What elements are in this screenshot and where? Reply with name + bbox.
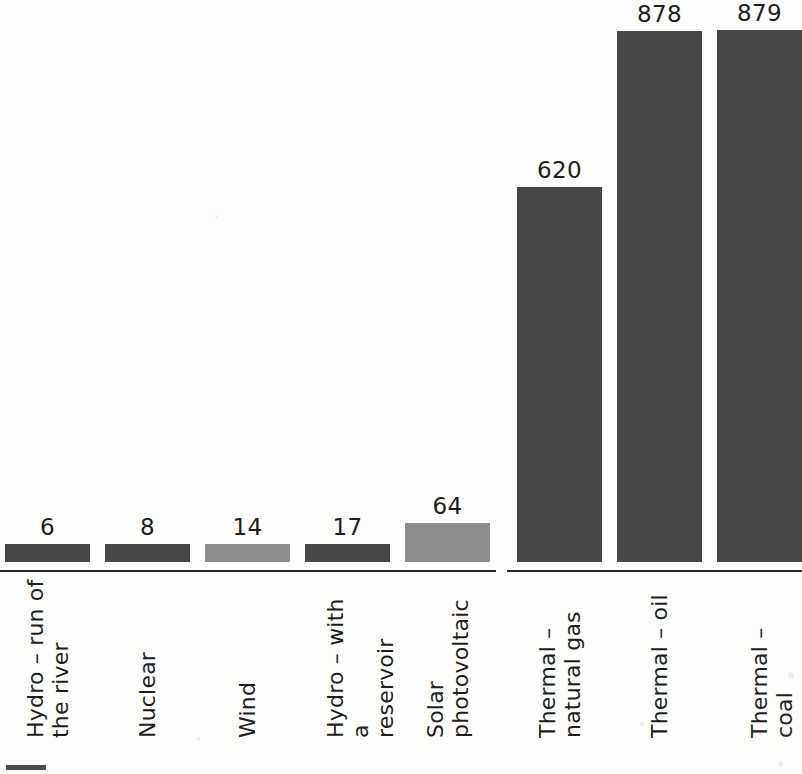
category-label: Thermal – natural gas	[535, 578, 585, 738]
bar[interactable]	[717, 30, 802, 562]
scan-speckle	[197, 737, 200, 741]
bar-value-label: 14	[233, 516, 263, 539]
category-label: Nuclear	[135, 578, 160, 738]
category-label: Thermal – oil	[647, 578, 672, 738]
category-label: Hydro – run of the river	[23, 578, 73, 738]
bar[interactable]	[517, 187, 602, 562]
bar[interactable]	[617, 31, 702, 562]
bar-slot: 878	[617, 0, 702, 571]
category-label: Wind	[235, 578, 260, 738]
bar-slot: 6	[5, 0, 90, 571]
bar[interactable]	[405, 523, 490, 562]
bar-value-label: 8	[140, 516, 155, 539]
category-label: Solar photovoltaic	[423, 578, 473, 738]
bar-slot: 8	[105, 0, 190, 571]
bar-value-label: 620	[537, 159, 582, 182]
axis-line-right-group	[507, 570, 802, 572]
bar-slot: 14	[205, 0, 290, 571]
plot-area: 68141764620878879	[0, 0, 802, 571]
bar-value-label: 64	[433, 495, 463, 518]
category-label: Thermal – coal	[747, 578, 797, 738]
bar-slot: 64	[405, 0, 490, 571]
bar-value-label: 6	[40, 516, 55, 539]
scan-speckle	[640, 722, 644, 726]
axis-line-left-group	[0, 570, 496, 572]
bar[interactable]	[5, 544, 90, 562]
bar[interactable]	[305, 544, 390, 562]
bar[interactable]	[205, 544, 290, 562]
bar-value-label: 878	[637, 3, 682, 26]
legend-color-swatch	[6, 765, 46, 770]
bar-slot: 620	[517, 0, 602, 571]
chart-page: 68141764620878879 Hydro – run of the riv…	[0, 0, 802, 774]
bar-slot: 879	[717, 0, 802, 571]
bar-slot: 17	[305, 0, 390, 571]
bar-value-label: 879	[737, 2, 782, 25]
scan-speckle	[778, 761, 783, 767]
bar[interactable]	[105, 544, 190, 562]
category-label: Hydro – with a reservoir	[323, 578, 398, 738]
bar-value-label: 17	[333, 516, 363, 539]
